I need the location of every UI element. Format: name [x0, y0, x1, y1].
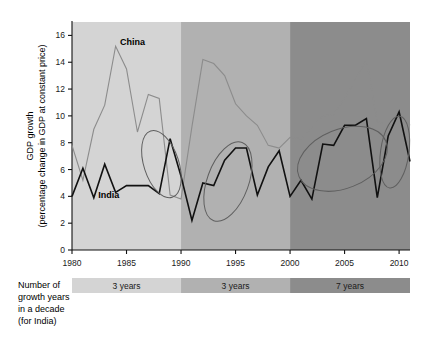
china-series-label: China — [120, 37, 146, 47]
y-tick-label: 16 — [56, 30, 66, 40]
x-tick-label: 1980 — [63, 258, 82, 268]
gdp-growth-figure: 0246810121416 19801985199019952000200520… — [0, 0, 429, 343]
legend-band-label-1990s: 3 years — [222, 281, 250, 291]
x-tick-label: 1985 — [117, 258, 136, 268]
x-tick-label: 1995 — [226, 258, 245, 268]
y-axis-tick-labels: 0246810121416 — [56, 30, 66, 255]
chart-canvas: 0246810121416 19801985199019952000200520… — [0, 0, 429, 343]
x-tick-label: 1990 — [172, 258, 191, 268]
y-tick-label: 12 — [56, 84, 66, 94]
y-axis-ticks — [68, 35, 72, 250]
y-tick-label: 6 — [60, 165, 65, 175]
x-tick-label: 2005 — [335, 258, 354, 268]
legend-band-label-2000s: 7 years — [336, 281, 364, 291]
y-axis-title-line2: (percentage change in GDP at constant pr… — [37, 45, 47, 228]
india-series-label: India — [98, 190, 120, 200]
y-axis-title-line1: GDP growth — [25, 112, 35, 161]
plot-band-1990s — [181, 22, 290, 250]
x-tick-label: 2010 — [390, 258, 409, 268]
legend-caption-line3: in a decade — [18, 304, 65, 314]
plot-band-2000s — [290, 22, 410, 250]
x-tick-label: 2000 — [281, 258, 300, 268]
y-tick-label: 2 — [60, 218, 65, 228]
legend-caption-line4: (for India) — [18, 316, 57, 326]
legend-group: Number of growth years in a decade (for … — [18, 278, 410, 326]
legend-band-label-1980s: 3 years — [113, 281, 141, 291]
y-tick-label: 10 — [56, 111, 66, 121]
y-tick-label: 14 — [56, 57, 66, 67]
legend-caption-line2: growth years — [18, 292, 70, 302]
y-tick-label: 8 — [60, 138, 65, 148]
y-tick-label: 4 — [60, 191, 65, 201]
y-axis-title-group: GDP growth (percentage change in GDP at … — [25, 45, 47, 228]
decade-bands-group — [72, 22, 410, 250]
legend-caption-line1: Number of — [18, 280, 61, 290]
y-tick-label: 0 — [60, 245, 65, 255]
x-axis-ticks — [72, 250, 399, 254]
x-axis-tick-labels: 1980198519901995200020052010 — [63, 258, 409, 268]
